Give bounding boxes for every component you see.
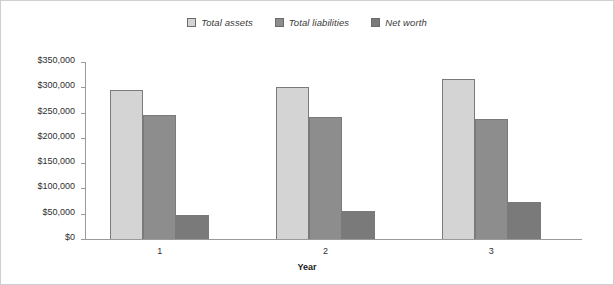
bar[interactable] bbox=[176, 215, 209, 239]
bar[interactable] bbox=[110, 90, 143, 239]
y-axis-tick-label: $200,000 bbox=[37, 131, 75, 141]
bar-group-2 bbox=[276, 62, 375, 239]
bar[interactable] bbox=[276, 87, 309, 239]
y-axis-tick-label: $50,000 bbox=[42, 207, 75, 217]
bar[interactable] bbox=[475, 119, 508, 239]
y-axis-tick-label: $250,000 bbox=[37, 106, 75, 116]
bar-group-1 bbox=[110, 62, 209, 239]
plot-area bbox=[85, 62, 582, 239]
y-axis-tick-label: $300,000 bbox=[37, 80, 75, 90]
y-axis-tick-label: $0 bbox=[65, 232, 75, 242]
bar[interactable] bbox=[508, 202, 541, 239]
legend-label: Net worth bbox=[385, 17, 427, 28]
legend-item-0[interactable]: Total assets bbox=[187, 17, 253, 28]
x-axis-title: Year bbox=[1, 262, 613, 272]
y-axis-tick-label: $100,000 bbox=[37, 181, 75, 191]
x-axis-tick-label: 3 bbox=[471, 246, 511, 256]
legend-swatch-icon bbox=[275, 18, 284, 27]
y-axis-tick-label: $350,000 bbox=[37, 55, 75, 65]
legend-swatch-icon bbox=[371, 18, 380, 27]
x-axis-tick-label: 1 bbox=[140, 246, 180, 256]
chart-legend: Total assetsTotal liabilitiesNet worth bbox=[1, 17, 613, 28]
y-axis-tick-mark bbox=[81, 239, 85, 240]
bar[interactable] bbox=[342, 211, 375, 239]
x-axis-line bbox=[85, 239, 582, 240]
x-axis-tick-label: 2 bbox=[306, 246, 346, 256]
bar[interactable] bbox=[143, 115, 176, 239]
bar-group-3 bbox=[442, 62, 541, 239]
bar[interactable] bbox=[442, 79, 475, 239]
legend-item-1[interactable]: Total liabilities bbox=[275, 17, 350, 28]
legend-label: Total liabilities bbox=[289, 17, 350, 28]
y-axis-tick-label: $150,000 bbox=[37, 156, 75, 166]
legend-item-2[interactable]: Net worth bbox=[371, 17, 427, 28]
chart-container: Total assetsTotal liabilitiesNet worth $… bbox=[0, 0, 614, 285]
legend-label: Total assets bbox=[201, 17, 253, 28]
bar[interactable] bbox=[309, 117, 342, 239]
legend-swatch-icon bbox=[187, 18, 196, 27]
